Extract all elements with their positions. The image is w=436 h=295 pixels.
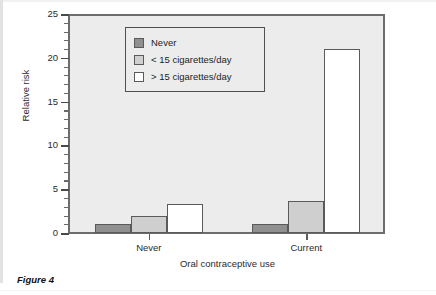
legend-item: > 15 cigarettes/day: [134, 68, 257, 85]
figure-caption: Figure 4: [17, 274, 54, 285]
bar: [288, 201, 324, 233]
y-tick-minor: [64, 128, 69, 129]
y-tick-minor: [64, 32, 69, 33]
y-tick-major: [61, 145, 69, 147]
bar: [95, 224, 131, 233]
y-tick-minor: [64, 198, 69, 199]
bar: [252, 224, 288, 233]
bar: [324, 49, 360, 233]
legend-label: > 15 cigarettes/day: [151, 71, 232, 82]
y-axis-title: Relative risk: [20, 26, 31, 166]
x-category-label: Current: [246, 242, 366, 253]
chart-legend: Never< 15 cigarettes/day> 15 cigarettes/…: [125, 27, 265, 92]
y-tick-minor: [64, 110, 69, 111]
page-top-rule: [0, 0, 436, 2]
y-tick-minor: [64, 84, 69, 85]
y-tick-minor: [64, 224, 69, 225]
y-tick-minor: [64, 154, 69, 155]
legend-label: Never: [151, 37, 176, 48]
y-tick-minor: [64, 93, 69, 94]
y-tick-minor: [64, 40, 69, 41]
y-tick-label: 25: [2, 8, 58, 19]
y-tick-minor: [64, 137, 69, 138]
y-tick-minor: [64, 163, 69, 164]
x-axis-title: Oral contraceptive use: [70, 258, 385, 269]
y-tick-major: [61, 58, 69, 60]
y-tick-minor: [64, 180, 69, 181]
caption-ghost-text: [0, 287, 436, 295]
y-tick-minor: [64, 207, 69, 208]
y-tick-major: [61, 189, 69, 191]
figure-container: 0510152025 Relative risk NeverCurrent Or…: [0, 0, 436, 295]
y-tick-minor: [64, 49, 69, 50]
x-tick: [306, 234, 308, 240]
y-tick-major: [61, 102, 69, 104]
y-tick-minor: [64, 23, 69, 24]
y-tick-label: 5: [2, 183, 58, 194]
y-tick-minor: [64, 216, 69, 217]
y-tick-major: [61, 14, 69, 16]
x-tick: [149, 234, 151, 240]
y-tick-minor: [64, 67, 69, 68]
y-tick-minor: [64, 119, 69, 120]
legend-item: < 15 cigarettes/day: [134, 51, 257, 68]
x-category-label: Never: [89, 242, 209, 253]
y-tick-major: [61, 233, 69, 235]
legend-item: Never: [134, 34, 257, 51]
legend-swatch-icon: [134, 38, 144, 48]
y-tick-minor: [64, 172, 69, 173]
legend-swatch-icon: [134, 72, 144, 82]
y-tick-label: 0: [2, 227, 58, 238]
bar: [131, 216, 167, 234]
y-tick-minor: [64, 75, 69, 76]
legend-swatch-icon: [134, 55, 144, 65]
bar: [167, 204, 203, 233]
legend-label: < 15 cigarettes/day: [151, 54, 232, 65]
